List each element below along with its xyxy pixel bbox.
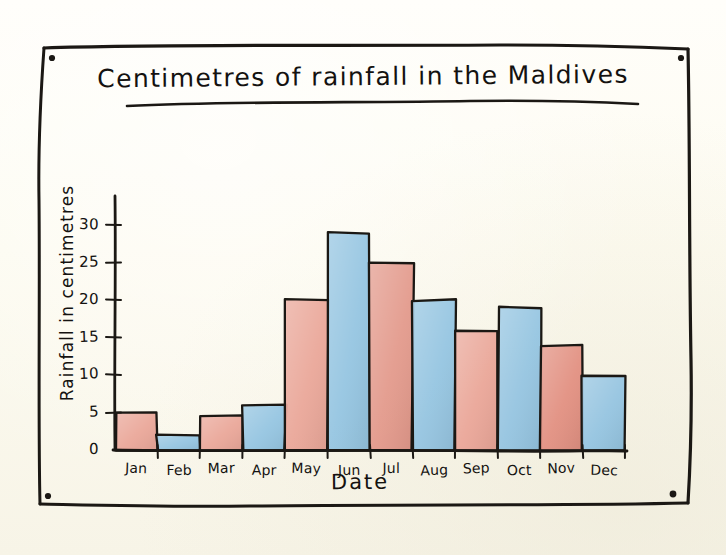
bar-wash-mar (200, 415, 243, 450)
x-tick-jul (413, 445, 414, 458)
bar-wash-dec (581, 376, 625, 451)
bars-group (116, 232, 625, 450)
bar-wash-jun (328, 232, 370, 450)
y-tick-label-30: 30 (57, 215, 99, 234)
y-tick-label-5: 5 (57, 402, 99, 421)
bar-wash-feb (156, 435, 200, 451)
y-tick-label-0: 0 (57, 440, 99, 458)
bar-wash-aug (412, 299, 456, 450)
y-tick-label-15: 15 (57, 327, 99, 346)
bar-wash-jul (369, 263, 414, 451)
paper-sheet: Centimetres of rainfall in the Maldives … (0, 0, 726, 555)
bar-wash-may (285, 299, 329, 450)
y-tick-label-20: 20 (57, 290, 99, 308)
y-tick-20 (106, 299, 121, 300)
bar-wash-sep (455, 331, 497, 451)
bar-wash-oct (498, 307, 542, 451)
y-tick-15 (106, 337, 121, 338)
bar-wash-jan (116, 412, 158, 450)
bar-wash-nov (540, 345, 583, 451)
bar-wash-apr (242, 405, 286, 451)
x-tick-jun (370, 445, 371, 458)
x-tick-nov (583, 445, 584, 458)
y-tick-label-25: 25 (57, 252, 100, 271)
y-tick-10 (106, 374, 121, 375)
y-tick-label-10: 10 (57, 364, 100, 384)
x-tick-label-dec: Dec (574, 461, 633, 478)
